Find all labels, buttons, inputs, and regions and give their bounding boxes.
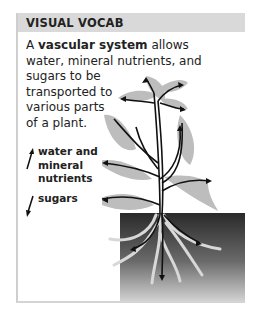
plant-illustration	[102, 73, 242, 301]
arrow-up-icon	[25, 148, 35, 170]
card-header: VISUAL VOCAB	[18, 13, 245, 32]
card-title: VISUAL VOCAB	[26, 16, 124, 30]
vocab-term: vascular system	[38, 38, 148, 52]
arrow-down-icon	[25, 195, 35, 217]
visual-vocab-card: VISUAL VOCAB A vascular system allows wa…	[16, 13, 245, 303]
